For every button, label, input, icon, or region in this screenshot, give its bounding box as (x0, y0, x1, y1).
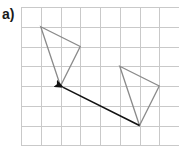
grid-lines (21, 7, 179, 146)
object-triangle (120, 66, 160, 125)
grid-diagram (0, 0, 179, 147)
image-triangle (41, 27, 81, 86)
